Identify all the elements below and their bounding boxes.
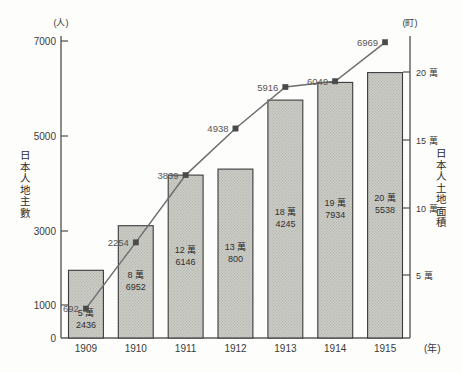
line-point-label-1912: 4938 [207, 123, 228, 134]
bar-label-major-1911: 12 萬 [175, 244, 197, 255]
x-tick-label-1909: 1909 [75, 343, 98, 354]
x-tick-label-1912: 1912 [224, 343, 247, 354]
bar-label-minor-1911: 6146 [176, 257, 196, 267]
bar-label-minor-1909: 2436 [76, 320, 96, 330]
bar-label-major-1913: 18 萬 [275, 206, 297, 217]
bar-label-major-1914: 19 萬 [324, 197, 346, 208]
x-axis-unit-label: (年) [424, 342, 441, 354]
x-axis-tick-labels-layer: 1909191019111912191319141915 [75, 343, 397, 354]
line-point-label-1911: 3839 [157, 170, 178, 181]
line-point-label-1909: 692 [63, 303, 79, 314]
left-tick-label-0: 0 [50, 333, 56, 344]
x-tick-label-1915: 1915 [374, 343, 397, 354]
right-axis-title: 日本人土地面積 [434, 148, 448, 229]
bar-label-minor-1913: 4245 [275, 219, 295, 229]
right-axis-title-char-0: 日 [434, 148, 448, 160]
bar-label-major-1910: 8 萬 [128, 269, 145, 280]
right-axis-unit-label: (町) [403, 18, 418, 28]
left-tick-label-7000: 7000 [34, 36, 57, 47]
x-tick-label-1913: 1913 [274, 343, 297, 354]
line-point-label-1913: 5916 [257, 82, 278, 93]
bar-label-major-1912: 13 萬 [225, 241, 247, 252]
right-tick-label-150000: 15 萬 [416, 135, 438, 146]
line-marker-1913 [283, 84, 288, 89]
line-point-label-1915: 6969 [357, 37, 378, 48]
bar-label-minor-1910: 6952 [126, 282, 146, 292]
chart-canvas: 7000 5000 3000 1000 0 (人) 20 萬 15 萬 10 萬… [0, 0, 462, 372]
right-axis-title-char-2: 人 [434, 171, 448, 183]
bar-label-major-1915: 20 萬 [374, 192, 396, 203]
left-tick-label-3000: 3000 [34, 226, 57, 237]
left-axis-title-char-2: 人 [18, 173, 32, 185]
line-marker-1911 [183, 173, 188, 178]
bar-label-minor-1914: 7934 [325, 210, 345, 220]
x-tick-label-1911: 1911 [175, 343, 197, 354]
right-tick-label-200000: 20 萬 [416, 67, 438, 78]
chart-container: 7000 5000 3000 1000 0 (人) 20 萬 15 萬 10 萬… [0, 0, 462, 372]
left-axis-title: 日本人地主數 [18, 150, 32, 219]
left-tick-label-1000: 1000 [34, 300, 57, 311]
line-marker-1912 [233, 126, 238, 131]
bar-label-minor-1912: 800 [228, 254, 243, 264]
x-tick-label-1914: 1914 [324, 343, 347, 354]
right-tick-label-50000: 5 萬 [416, 270, 433, 281]
line-marker-1914 [333, 79, 338, 84]
line-marker-1915 [383, 40, 388, 45]
left-tick-label-5000: 5000 [34, 131, 57, 142]
left-axis-unit-label: (人) [54, 18, 69, 28]
line-point-label-1910: 2254 [108, 237, 129, 248]
bar-label-minor-1915: 5538 [375, 205, 395, 215]
left-axis-title-char-5: 數 [18, 208, 32, 220]
line-point-label-1914: 6049 [307, 76, 328, 87]
line-marker-1910 [133, 240, 138, 245]
left-axis-title-char-0: 日 [18, 150, 32, 162]
right-axis-title-char-6: 積 [434, 217, 448, 229]
line-marker-1909 [83, 306, 88, 311]
x-tick-label-1910: 1910 [125, 343, 148, 354]
right-axis-title-char-4: 地 [434, 194, 448, 206]
left-axis-title-char-4: 主 [18, 196, 32, 208]
